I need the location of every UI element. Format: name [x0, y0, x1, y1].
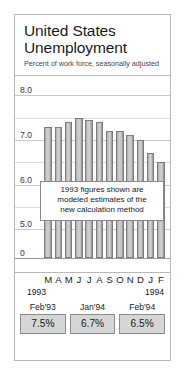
callout-line-2: modeled estimates of the — [43, 195, 161, 205]
stat-label: Feb'93 — [20, 302, 66, 312]
bar-series — [43, 76, 166, 272]
x-axis-tick-label: A — [55, 274, 61, 285]
x-axis-tick-label: S — [106, 274, 112, 285]
stat-value-badge: 6.5% — [119, 314, 165, 334]
summary-stats: Feb'937.5%Jan'946.7%Feb'946.5% — [15, 302, 170, 334]
y-axis-tick-label: 5.0 — [19, 220, 34, 229]
chart-card: United States Unemployment Percent of wo… — [14, 14, 171, 361]
x-axis-month-labels: MAMJJASONDJF — [43, 273, 166, 287]
stat-value-badge: 7.5% — [20, 314, 66, 334]
chart-subtitle: Percent of work force, seasonally adjust… — [24, 59, 161, 68]
page-title: United States Unemployment — [24, 22, 161, 56]
title-line-2: Unemployment — [24, 39, 161, 56]
y-axis-tick-label: 0 — [19, 249, 27, 258]
x-axis-tick-label: F — [158, 274, 164, 285]
x-axis-tick-label: J — [76, 274, 81, 285]
x-axis-tick-label: A — [96, 274, 102, 285]
x-axis-tick-label: D — [137, 274, 144, 285]
callout-line-1: 1993 figures shown are — [43, 185, 161, 195]
title-line-1: United States — [24, 22, 161, 39]
stat-label: Feb'94 — [119, 302, 165, 312]
chart-plot-area: 05.06.07.08.0 1993 figures shown are mod… — [15, 76, 170, 272]
x-axis-tick-label: M — [65, 274, 73, 285]
x-axis-tick-label: J — [87, 274, 92, 285]
year-label-left: 1993 — [27, 287, 46, 297]
callout-line-3: new calculation method — [43, 205, 161, 215]
x-axis-year-labels: 1993 1994 — [27, 287, 164, 299]
stat-label: Jan'94 — [70, 302, 116, 312]
axis-baseline — [15, 258, 170, 259]
x-axis-tick-label: M — [44, 274, 52, 285]
stat-item: Feb'946.5% — [119, 302, 165, 334]
y-axis-tick-label: 6.0 — [19, 176, 34, 185]
y-axis-tick-label: 7.0 — [19, 131, 34, 140]
y-axis-tick-label: 8.0 — [19, 86, 34, 95]
stat-item: Jan'946.7% — [70, 302, 116, 334]
chart-header: United States Unemployment Percent of wo… — [15, 15, 170, 71]
stat-value-badge: 6.7% — [70, 314, 116, 334]
stat-item: Feb'937.5% — [20, 302, 66, 334]
annotation-callout: 1993 figures shown are modeled estimates… — [40, 181, 164, 221]
year-label-right: 1994 — [145, 287, 164, 297]
x-axis-tick-label: N — [127, 274, 134, 285]
x-axis-tick-label: O — [116, 274, 123, 285]
x-axis-tick-label: J — [148, 274, 153, 285]
